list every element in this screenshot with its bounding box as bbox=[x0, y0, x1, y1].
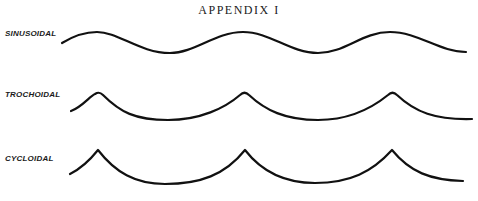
cycloidal-wave bbox=[70, 150, 463, 184]
wave-diagram bbox=[0, 0, 478, 201]
sinusoidal-wave bbox=[62, 32, 466, 53]
trochoidal-wave bbox=[71, 93, 472, 120]
